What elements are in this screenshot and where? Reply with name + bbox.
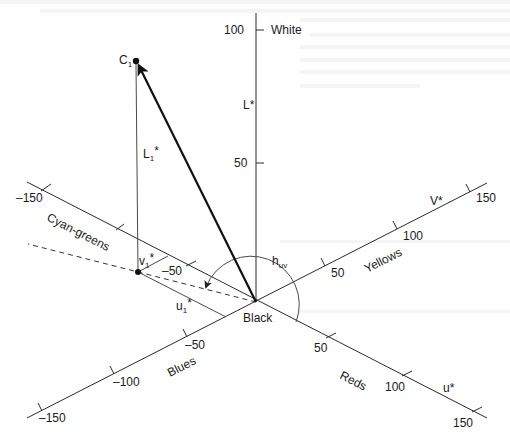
reds-label: Reds (338, 368, 369, 393)
v-tick-neg150 (38, 403, 42, 411)
u-tick-label-neg150: –150 (16, 191, 43, 205)
v-tick-label-neg150: –150 (39, 411, 66, 425)
c1-label: C1 (119, 53, 133, 69)
point-projection (28, 64, 256, 317)
u-tick-150 (472, 407, 482, 412)
page-bleed-through (0, 0, 510, 313)
v-tick-neg50 (183, 329, 187, 337)
v-tick-label-100: 100 (403, 229, 423, 243)
tick-label-100: 100 (224, 23, 244, 37)
floor-point (135, 269, 141, 275)
u-tick-neg150 (41, 184, 51, 191)
lightness-drop-line (136, 64, 138, 272)
v-tick-100 (393, 221, 397, 229)
u-tick-label-50: 50 (314, 341, 328, 355)
v-tick-50 (321, 258, 325, 266)
chroma-dashed-line (28, 244, 256, 302)
cieluv-diagram: 100 White 50 L* 50 100 150 –50 –100 –150… (0, 0, 510, 442)
origin-black-label: Black (243, 311, 273, 325)
yellows-label: Yellows (362, 245, 404, 276)
v-tick-label-50: 50 (331, 266, 345, 280)
u1-label: u1* (176, 296, 192, 315)
u-tick-label-neg50: –50 (162, 264, 182, 278)
hue-angle-label: huv (272, 254, 287, 270)
u-tick-100 (402, 371, 412, 376)
u-axis-label: u* (443, 381, 455, 395)
u-tick-neg100 (116, 224, 124, 230)
v-tick-label-neg50: –50 (185, 338, 205, 352)
color-point-c1 (133, 58, 139, 64)
v-tick-label-neg100: –100 (113, 375, 140, 389)
v-axis-label: V* (430, 194, 443, 208)
v1-label: v1* (139, 251, 154, 270)
u-tick-neg50 (186, 261, 196, 266)
v-tick-label-150: 150 (476, 191, 496, 205)
v-tick-150 (466, 184, 470, 192)
cyan-greens-label: Cyan-greens (45, 210, 113, 254)
diagram-canvas: 100 White 50 L* 50 100 150 –50 –100 –150… (0, 0, 510, 442)
u-tick-50 (326, 333, 336, 338)
v-axis: 50 100 150 –50 –100 –150 V* Yellows Blue… (27, 183, 496, 425)
white-label: White (271, 23, 302, 37)
v-tick-neg100 (110, 366, 114, 374)
l1-label: L1* (143, 144, 159, 163)
u-tick-label-150: 150 (453, 416, 473, 430)
lightness-axis-label: L* (243, 98, 255, 112)
tick-label-50: 50 (234, 156, 248, 170)
blues-label: Blues (165, 354, 198, 380)
u-tick-label-100: 100 (385, 380, 405, 394)
